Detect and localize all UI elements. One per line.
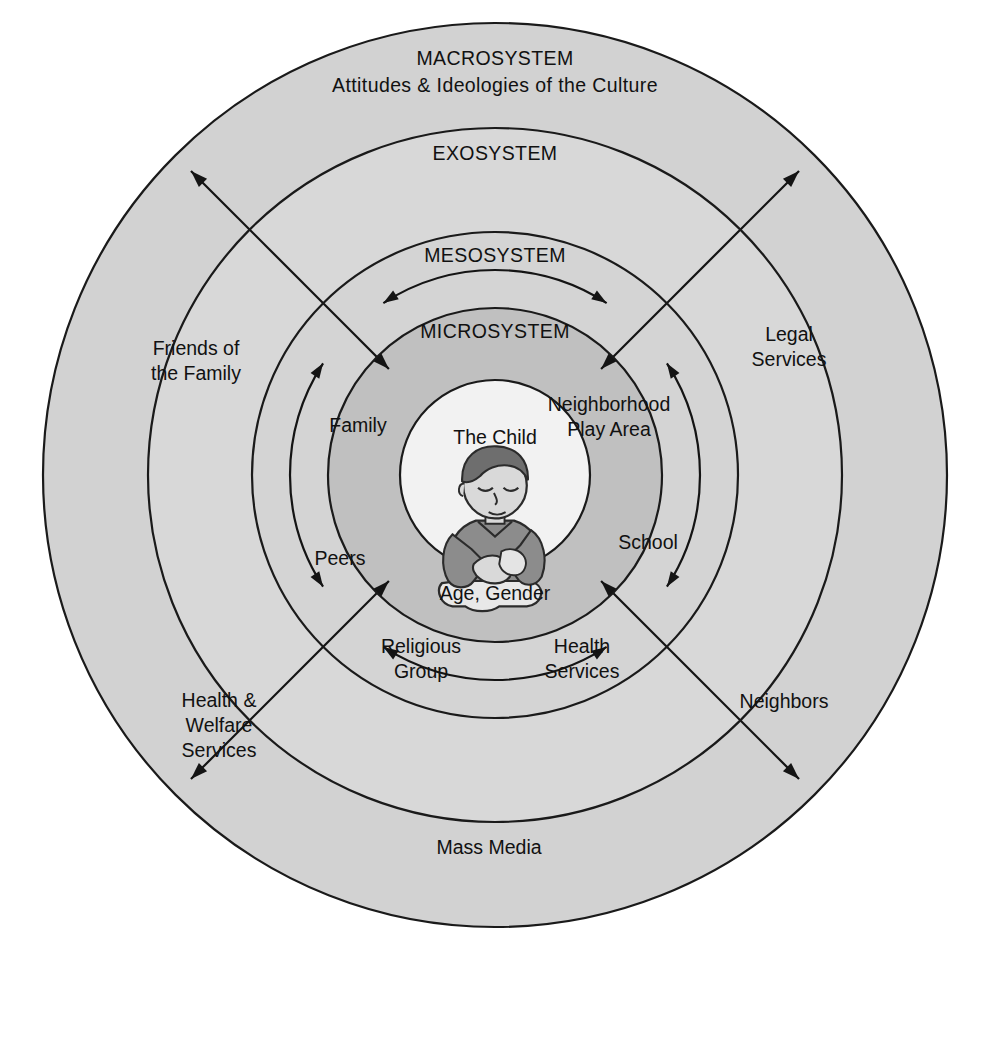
ring-title-microsystem: MICROSYSTEM: [420, 320, 570, 342]
diagram-canvas: and responses. The teacher who is most c…: [0, 0, 995, 1038]
ring-title-mesosystem: MESOSYSTEM: [424, 244, 566, 266]
microsystem-label-school: School: [618, 531, 678, 553]
exosystem-label-neighbors: Neighbors: [740, 690, 829, 712]
exosystem-label-mass-media: Mass Media: [436, 836, 541, 858]
exosystem-label-health-welfare-services: Health &WelfareServices: [182, 689, 257, 761]
ecological-systems-diagram: and responses. The teacher who is most c…: [0, 0, 995, 1038]
microsystem-label-peers: Peers: [315, 547, 366, 569]
microsystem-label-family: Family: [329, 414, 387, 436]
center-bottom-label: Age, Gender: [440, 582, 551, 604]
ring-subtitle-macrosystem: Attitudes & Ideologies of the Culture: [332, 74, 658, 96]
ring-title-exosystem: EXOSYSTEM: [433, 142, 558, 164]
ring-title-macrosystem: MACROSYSTEM: [416, 47, 573, 69]
center-top-label: The Child: [453, 426, 536, 448]
